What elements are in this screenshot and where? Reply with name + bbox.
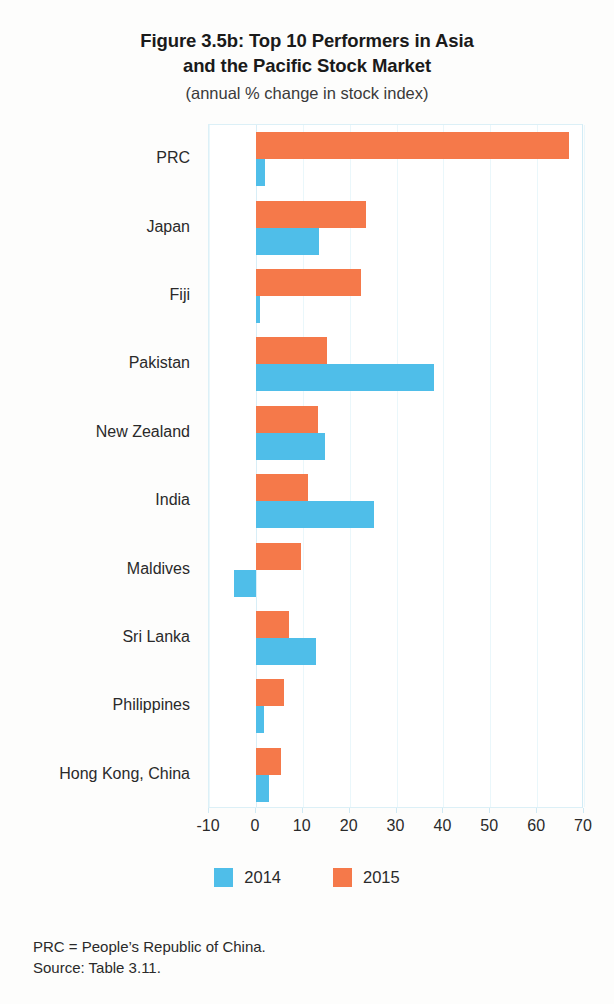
tick-label-0: 0 [250,817,259,835]
gridline--10 [209,125,210,807]
legend-swatch-icon-2014 [214,868,233,887]
tick-label-60: 60 [527,817,545,835]
category-label-2: Fiji [170,286,190,304]
tick-mark-30 [396,808,397,813]
tick-label-20: 20 [340,817,358,835]
category-label-0: PRC [156,149,190,167]
bar-2015-new-zealand [256,406,318,433]
tick-mark-0 [255,808,256,813]
bar-2015-sri-lanka [256,611,289,638]
tick-label-50: 50 [480,817,498,835]
category-axis-labels: PRCJapanFijiPakistanNew ZealandIndiaMald… [0,124,200,808]
gridline-70 [584,125,585,807]
tick-label-40: 40 [433,817,451,835]
bar-2014-pakistan [256,364,434,391]
footnote-source: Source: Table 3.11. [33,957,553,978]
tick-mark-20 [349,808,350,813]
tick-mark--10 [208,808,209,813]
plot-area [208,124,583,808]
category-label-7: Sri Lanka [122,628,190,646]
category-label-4: New Zealand [96,423,190,441]
legend-item-2014[interactable]: 2014 [214,868,281,887]
category-label-8: Philippines [113,696,190,714]
bar-2014-prc [256,159,265,186]
gridline-50 [490,125,491,807]
bar-2015-hong-kong-china [256,748,281,775]
tick-label-30: 30 [387,817,405,835]
gridline-30 [397,125,398,807]
tick-mark-70 [583,808,584,813]
bar-2015-prc [256,132,569,159]
category-label-6: Maldives [127,560,190,578]
category-label-1: Japan [146,218,190,236]
figure-page: Figure 3.5b: Top 10 Performers in Asia a… [0,0,614,1004]
bar-2014-hong-kong-china [256,775,269,802]
category-label-3: Pakistan [129,354,190,372]
bar-2015-maldives [256,543,301,570]
bar-2014-japan [256,228,319,255]
bar-2014-sri-lanka [256,638,316,665]
category-label-5: India [155,491,190,509]
gridline-60 [537,125,538,807]
tick-mark-60 [536,808,537,813]
bar-2014-philippines [256,706,264,733]
bar-2014-maldives [234,570,256,597]
chart-legend: 2014 2015 [0,868,614,887]
legend-label-2015: 2015 [363,868,400,887]
bar-2015-philippines [256,679,284,706]
chart-area: PRCJapanFijiPakistanNew ZealandIndiaMald… [0,124,614,814]
gridline-40 [443,125,444,807]
bar-2015-pakistan [256,337,327,364]
figure-title: Figure 3.5b: Top 10 Performers in Asia a… [0,28,614,78]
bar-2015-japan [256,201,366,228]
tick-label-10: 10 [293,817,311,835]
footnote-abbreviation: PRC = People’s Republic of China. [33,936,553,957]
title-block: Figure 3.5b: Top 10 Performers in Asia a… [0,28,614,103]
bar-2014-india [256,501,375,528]
value-axis: -10010203040506070 [208,808,583,844]
category-label-9: Hong Kong, China [59,765,190,783]
bar-2014-fiji [256,296,260,323]
tick-label-70: 70 [574,817,592,835]
tick-label--10: -10 [196,817,219,835]
legend-swatch-icon-2015 [333,868,352,887]
footnotes: PRC = People’s Republic of China. Source… [33,936,553,978]
bar-2015-fiji [256,269,361,296]
bar-2015-india [256,474,309,501]
legend-label-2014: 2014 [244,868,281,887]
bar-2014-new-zealand [256,433,325,460]
figure-subtitle: (annual % change in stock index) [0,84,614,103]
tick-mark-10 [302,808,303,813]
tick-mark-40 [442,808,443,813]
legend-item-2015[interactable]: 2015 [333,868,400,887]
tick-mark-50 [489,808,490,813]
